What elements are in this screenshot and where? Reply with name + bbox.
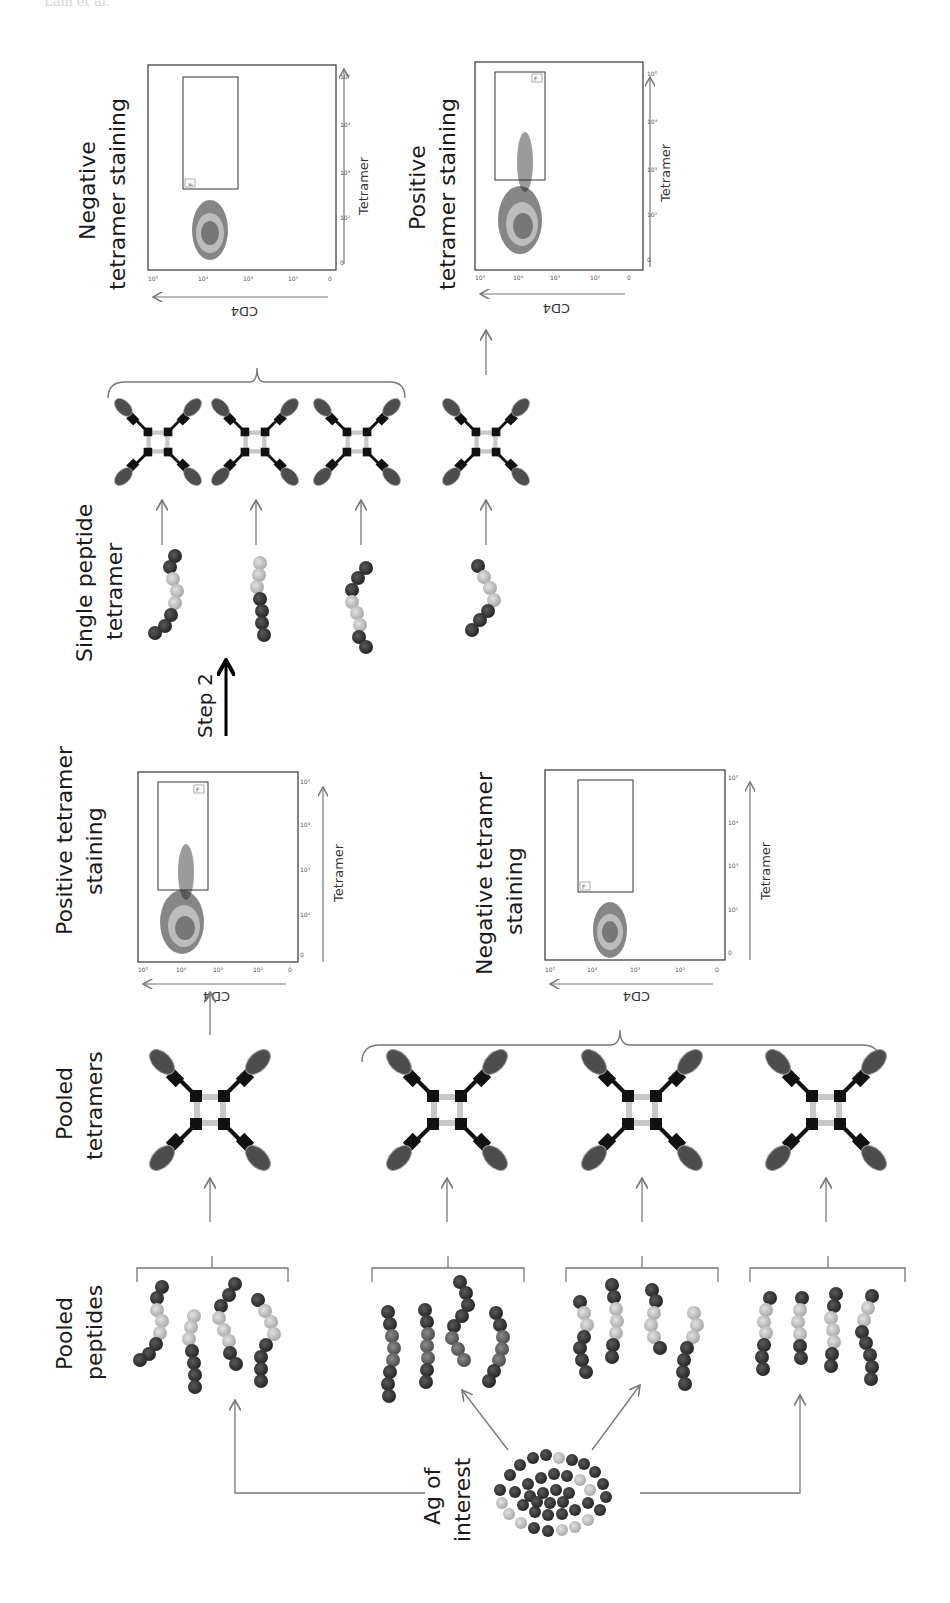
svg-text:10⁴: 10⁴ (340, 121, 351, 128)
svg-text:10⁴: 10⁴ (513, 274, 524, 281)
single-peptide-2 (250, 556, 271, 642)
arrows-single-peptide (162, 330, 486, 545)
svg-text:peptides: peptides (82, 1285, 107, 1380)
svg-text:10⁴: 10⁴ (176, 966, 187, 973)
svg-text:0: 0 (715, 966, 719, 973)
svg-text:F: F (534, 75, 538, 82)
svg-text:10²: 10² (288, 275, 299, 282)
svg-text:10³: 10³ (728, 862, 739, 869)
svg-text:Tetramer: Tetramer (758, 841, 773, 901)
svg-text:10⁴: 10⁴ (300, 821, 311, 828)
svg-text:10²: 10² (675, 966, 686, 973)
svg-text:10³: 10³ (647, 166, 658, 173)
single-tetramer-3 (310, 395, 404, 489)
svg-text:10³: 10³ (340, 169, 351, 176)
svg-text:staining: staining (82, 807, 107, 895)
svg-text:10⁵: 10⁵ (148, 275, 159, 282)
svg-text:tetramers: tetramers (82, 1051, 107, 1160)
label-single-peptide-tetramer: Single peptide tetramer (72, 504, 127, 662)
pooled-peptide-group-4 (755, 1287, 879, 1386)
svg-text:10⁴: 10⁴ (587, 966, 598, 973)
brace-single-tetramers (108, 368, 405, 398)
svg-text:Pooled: Pooled (52, 1297, 77, 1370)
svg-text:10⁴: 10⁴ (647, 118, 658, 125)
svg-text:Positive tetramer: Positive tetramer (52, 745, 77, 935)
svg-text:0: 0 (300, 951, 304, 958)
svg-text:tetramer staining: tetramer staining (105, 98, 130, 290)
label-positive-top: Positive tetramer staining (405, 98, 460, 290)
svg-text:CD4: CD4 (203, 989, 230, 1004)
pooled-tetramer-4 (761, 1045, 891, 1175)
svg-text:tetramer staining: tetramer staining (435, 98, 460, 290)
svg-text:10²: 10² (253, 966, 264, 973)
pooled-peptide-group-1 (133, 1277, 281, 1394)
svg-text:10⁵: 10⁵ (340, 73, 351, 80)
pooled-peptide-group-2 (381, 1275, 510, 1403)
svg-text:Single peptide: Single peptide (72, 504, 97, 662)
svg-text:0: 0 (288, 966, 292, 973)
svg-text:10²: 10² (300, 911, 311, 918)
single-tetramer-4 (439, 395, 533, 489)
svg-text:Negative tetramer: Negative tetramer (472, 771, 497, 975)
svg-text:10⁵: 10⁵ (138, 966, 149, 973)
svg-text:0: 0 (627, 274, 631, 281)
svg-text:Pooled: Pooled (52, 1067, 77, 1140)
tetramer-screening-diagram: Negative tetramer staining F Tetramer CD… (0, 0, 950, 1603)
svg-text:F: F (196, 786, 200, 793)
svg-text:interest: interest (450, 1457, 475, 1542)
svg-text:0: 0 (340, 259, 344, 266)
arrows-ag-to-peptides (235, 1385, 800, 1493)
single-peptide-3 (345, 561, 373, 654)
svg-text:10²: 10² (728, 906, 739, 913)
step-2-arrow: Step 2 (193, 662, 226, 738)
svg-text:F: F (187, 182, 194, 186)
svg-text:10²: 10² (590, 274, 601, 281)
peptide-group-brackets (137, 1256, 905, 1282)
flow-plot-low-positive: F Tetramer 0 10² 10³ 10⁴ 10⁵ 10⁵ 10⁴ 10³… (138, 772, 346, 1004)
svg-text:10⁵: 10⁵ (545, 966, 556, 973)
svg-text:10³: 10³ (243, 275, 254, 282)
svg-text:Positive: Positive (405, 145, 430, 230)
label-ag-of-interest: Ag of interest (420, 1457, 475, 1542)
pooled-tetramer-3 (577, 1045, 707, 1175)
flow-plot-top-negative: F Tetramer CD4 10⁵ 10⁴ 10³ 10² 0 0 10² 1… (148, 65, 371, 319)
svg-text:10³: 10³ (550, 274, 561, 281)
arrows-peptide-to-tetramer (210, 1178, 826, 1222)
single-peptide-4 (465, 559, 501, 637)
svg-text:Step 2: Step 2 (193, 673, 217, 738)
svg-text:Tetramer: Tetramer (356, 156, 371, 216)
svg-text:10⁴: 10⁴ (198, 275, 209, 282)
svg-text:10³: 10³ (300, 866, 311, 873)
svg-text:10⁵: 10⁵ (300, 778, 311, 785)
single-tetramer-1 (111, 395, 205, 489)
svg-text:Tetramer: Tetramer (331, 843, 346, 903)
label-negative-low: Negative tetramer staining (472, 771, 527, 975)
svg-text:0: 0 (328, 275, 332, 282)
single-peptide-1 (148, 549, 184, 640)
pooled-peptide-group-3 (573, 1278, 704, 1391)
svg-text:10⁴: 10⁴ (728, 819, 739, 826)
svg-text:0: 0 (647, 256, 651, 263)
svg-text:CD4: CD4 (543, 301, 570, 316)
svg-text:10⁵: 10⁵ (647, 70, 658, 77)
svg-text:Negative: Negative (75, 141, 100, 240)
svg-text:staining: staining (502, 847, 527, 935)
label-negative-top: Negative tetramer staining (75, 98, 130, 290)
svg-text:Tetramer: Tetramer (658, 143, 673, 203)
svg-text:10⁵: 10⁵ (475, 274, 486, 281)
svg-text:0: 0 (728, 949, 732, 956)
flow-plot-top-positive: F Tetramer CD4 10⁵ 10⁴ 10³ 10² 0 0 10² 1… (475, 62, 673, 316)
svg-text:10³: 10³ (630, 966, 641, 973)
svg-text:tetramer: tetramer (102, 542, 127, 640)
antigen-blob (483, 1448, 612, 1537)
brace-pooled-negative (362, 1030, 880, 1062)
svg-text:Ag of: Ag of (420, 1467, 445, 1525)
single-tetramer-2 (208, 395, 302, 489)
label-pooled-tetramers: Pooled tetramers (52, 1051, 107, 1160)
label-pooled-peptides: Pooled peptides (52, 1285, 107, 1380)
svg-text:10²: 10² (647, 211, 658, 218)
svg-text:CD4: CD4 (623, 989, 650, 1004)
svg-text:10²: 10² (340, 214, 351, 221)
svg-text:10³: 10³ (213, 966, 224, 973)
pooled-tetramer-1 (145, 1045, 275, 1175)
